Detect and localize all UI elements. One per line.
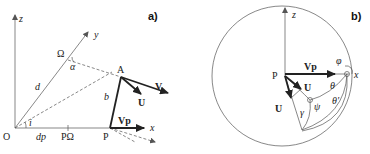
u-label-b1: U	[304, 82, 311, 93]
y-axis	[15, 32, 88, 128]
theta-label: θ	[330, 80, 335, 91]
alpha-label: α	[70, 61, 76, 72]
z-axis-label-a: z	[18, 13, 23, 24]
x-axis-label-b: x	[353, 69, 359, 80]
panel-a-label: a)	[148, 10, 158, 22]
u-label-b2: U	[275, 103, 282, 114]
x-axis-label-a: x	[149, 122, 155, 133]
u-connector	[291, 89, 301, 98]
vp-label-b: Vp	[304, 61, 317, 72]
psi-label: ψ	[314, 101, 321, 112]
b-label: b	[104, 91, 109, 102]
panel-b: z x φ P Vp U U θ θ' ψ γ b)	[212, 6, 362, 146]
dp-label: dp	[36, 131, 46, 142]
omega-a-line	[68, 60, 121, 77]
omega-label: Ω	[57, 48, 64, 59]
vp-label-a: Vp	[118, 115, 131, 126]
i-label: i	[29, 117, 32, 128]
z-axis-label-b: z	[291, 9, 296, 20]
a-point-label: A	[117, 64, 125, 75]
panel-a: z y x α i O Ω A P PΩ d	[3, 10, 168, 142]
panel-b-label: b)	[351, 10, 362, 22]
v-label: V	[155, 81, 163, 92]
gamma-label: γ	[300, 107, 305, 118]
p-point-label-a: P	[103, 131, 109, 142]
d-label: d	[35, 81, 41, 92]
p-omega-label: PΩ	[61, 131, 74, 142]
p-dash-2	[110, 128, 135, 142]
p-point-label-b: P	[272, 70, 278, 81]
theta-arc	[310, 74, 347, 100]
y-axis-label: y	[93, 29, 99, 40]
phi-label: φ	[336, 55, 342, 66]
diagram-canvas: z y x α i O Ω A P PΩ d	[0, 0, 370, 154]
sphere-outline	[212, 6, 352, 146]
u-label-a: U	[138, 97, 145, 108]
theta-prime-label: θ'	[332, 95, 340, 106]
i-arc	[25, 122, 26, 128]
p-dash-1	[110, 128, 155, 142]
origin-label: O	[3, 131, 10, 142]
